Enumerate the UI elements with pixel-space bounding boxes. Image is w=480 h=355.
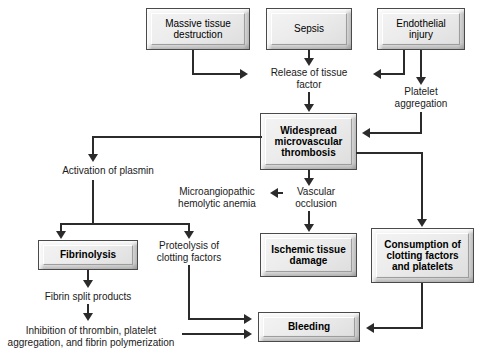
- edge-thrombosis-to-plasmin-horizontal: [92, 136, 262, 138]
- edge-massive-to-release-horizontal: [192, 73, 240, 75]
- edge-endothelial-to-release-vertical: [403, 50, 405, 74]
- node-inhibition-of-thrombin: Inhibition of thrombin, plateletaggregat…: [3, 325, 179, 349]
- edge-plasmin-to-proteolysis-arrowhead: [184, 231, 194, 239]
- node-vascular-occlusion: Vascularocclusion: [283, 186, 349, 210]
- edge-plasmin-bus-horizontal: [60, 223, 189, 225]
- node-ischemic-tissue-damage[interactable]: Ischemic tissuedamage: [260, 233, 357, 277]
- edge-split-to-inhibition-arrowhead: [83, 313, 93, 321]
- edge-inhibition-to-bleeding-horizontal: [182, 333, 244, 335]
- node-consumption-of-clotting-factors[interactable]: Consumption ofclotting factorsand platel…: [371, 228, 474, 283]
- edge-thrombosis-to-consumption-vertical: [421, 152, 423, 220]
- node-massive-tissue-destruction[interactable]: Massive tissuedestruction: [146, 8, 250, 50]
- edge-massive-to-release-vertical: [192, 50, 194, 74]
- node-release-of-tissue-factor: Release of tissuefactor: [255, 67, 363, 91]
- diagram-canvas: Massive tissuedestruction Sepsis Endothe…: [0, 0, 480, 355]
- edge-massive-to-release-arrowhead: [240, 69, 248, 79]
- edge-occlusion-to-ischemic-arrowhead: [304, 224, 314, 232]
- edge-thrombosis-to-plasmin-arrowhead: [88, 154, 98, 162]
- node-label: Massive tissuedestruction: [160, 18, 236, 40]
- edge-thrombosis-to-consumption-horizontal: [356, 152, 423, 154]
- edge-fibrinolysis-to-split-arrowhead: [83, 280, 93, 288]
- edge-proteolysis-to-bleeding-horizontal: [188, 318, 244, 320]
- edge-endothelial-to-release-horizontal: [381, 73, 405, 75]
- edge-release-to-thrombosis-arrowhead: [304, 104, 314, 112]
- edge-sepsis-to-release-arrowhead: [304, 58, 314, 66]
- edge-occlusion-to-ischemic-vertical: [308, 211, 310, 225]
- node-label: Endothelialinjury: [391, 18, 450, 40]
- node-proteolysis-of-clotting-factors: Proteolysis ofclotting factors: [146, 240, 232, 264]
- edge-platelet-to-thrombosis-vertical: [420, 112, 422, 133]
- edge-endothelial-to-platelet-vertical: [420, 50, 422, 79]
- edge-platelet-to-thrombosis-horizontal: [370, 132, 422, 134]
- edge-endothelial-to-platelet-arrowhead: [416, 77, 426, 85]
- edge-occlusion-anemia-final-shaft: [274, 192, 283, 194]
- edge-plasmin-to-fibrinolysis-arrowhead: [56, 231, 66, 239]
- node-microangiopathic-hemolytic-anemia: Microangiopathichemolytic anemia: [165, 186, 269, 210]
- node-label: Widespreadmicrovascularthrombosis: [270, 125, 348, 159]
- node-label: Sepsis: [289, 23, 329, 34]
- edge-platelet-to-thrombosis-arrowhead: [362, 128, 370, 138]
- edge-consumption-to-bleeding-arrowhead: [366, 323, 374, 333]
- edge-endothelial-to-release-arrowhead: [373, 69, 381, 79]
- node-label: Ischemic tissuedamage: [266, 244, 350, 266]
- edge-inhibition-to-bleeding-arrowhead: [244, 329, 252, 339]
- node-platelet-aggregation: Plateletaggregation: [381, 86, 461, 110]
- node-fibrin-split-products: Fibrin split products: [27, 291, 149, 303]
- node-label: Consumption ofclotting factorsand platel…: [379, 239, 466, 273]
- node-widespread-microvascular-thrombosis[interactable]: Widespreadmicrovascularthrombosis: [260, 113, 357, 170]
- node-endothelial-injury[interactable]: Endothelialinjury: [377, 8, 465, 50]
- node-bleeding[interactable]: Bleeding: [258, 312, 360, 342]
- edge-proteolysis-to-bleeding-vertical: [188, 265, 190, 319]
- node-label: Bleeding: [283, 321, 335, 332]
- node-sepsis[interactable]: Sepsis: [266, 8, 352, 50]
- edge-consumption-to-bleeding-vertical: [421, 283, 423, 328]
- edge-thrombosis-to-plasmin-vertical: [92, 136, 94, 155]
- node-label: Fibrinolysis: [55, 249, 121, 260]
- edge-consumption-to-bleeding-horizontal: [374, 327, 423, 329]
- node-activation-of-plasmin: Activation of plasmin: [48, 165, 168, 177]
- edge-plasmin-bus-vertical: [92, 180, 94, 224]
- edge-thrombosis-to-occlusion-arrowhead: [304, 178, 314, 186]
- edge-proteolysis-to-bleeding-arrowhead: [244, 314, 252, 324]
- edge-thrombosis-to-consumption-arrowhead: [417, 219, 427, 227]
- node-fibrinolysis[interactable]: Fibrinolysis: [38, 240, 138, 270]
